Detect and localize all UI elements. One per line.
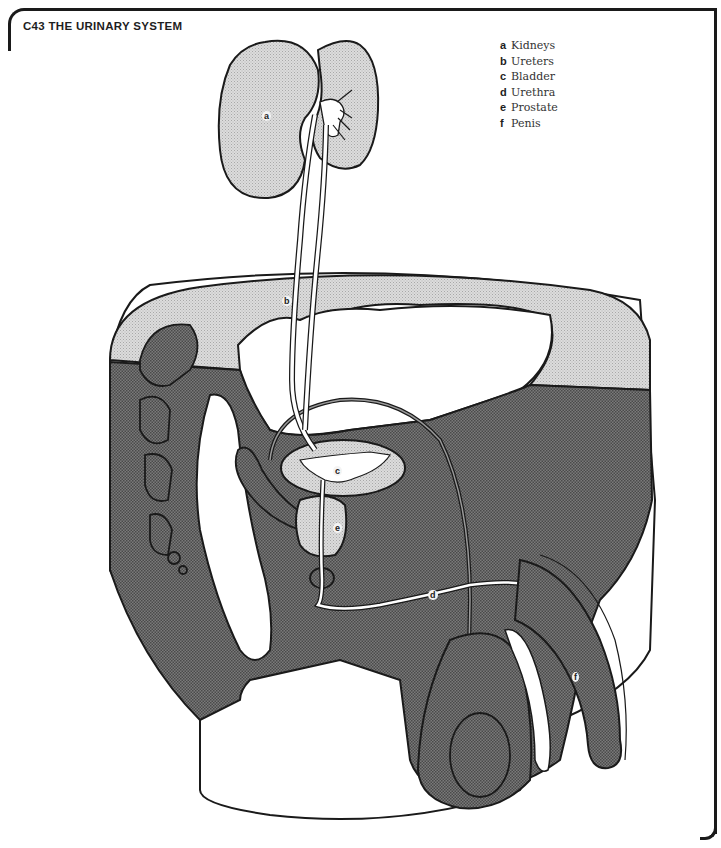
label-d-urethra: d xyxy=(428,590,438,600)
label-f-penis: f xyxy=(572,672,579,682)
label-e-prostate: e xyxy=(333,523,342,533)
label-b-ureters: b xyxy=(282,296,292,306)
label-c-bladder: c xyxy=(333,466,342,476)
label-a-kidneys: a xyxy=(262,111,271,121)
testis xyxy=(450,713,510,797)
urinary-system-diagram xyxy=(0,0,721,848)
